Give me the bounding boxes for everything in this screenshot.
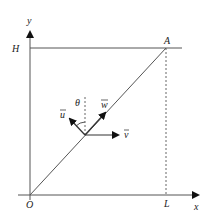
theta-label: θ xyxy=(75,97,80,108)
y-axis-label: y xyxy=(26,15,32,26)
height-label: H xyxy=(11,43,20,54)
vector-v-label: v xyxy=(124,129,129,140)
length-label: L xyxy=(163,198,170,209)
x-axis-label: x xyxy=(193,201,199,212)
theta-arc xyxy=(76,122,85,126)
vector-u-arrow xyxy=(70,119,85,135)
origin-label: O xyxy=(26,199,33,210)
diagram-canvas: y x H L O A θ u w v xyxy=(0,0,214,224)
vector-w-label: w xyxy=(101,99,108,110)
vector-u-label: u xyxy=(60,109,65,120)
point-a-label: A xyxy=(163,35,171,46)
vector-w-arrow xyxy=(85,113,105,135)
